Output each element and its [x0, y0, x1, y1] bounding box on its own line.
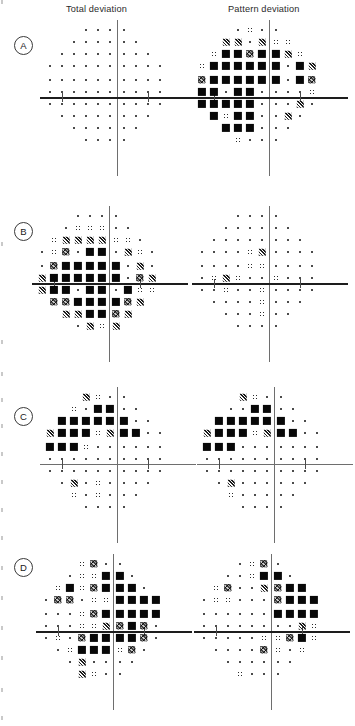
p05-solid-square-symbol	[274, 572, 282, 580]
dot-symbol	[49, 103, 51, 105]
dot-symbol	[123, 139, 125, 141]
p05-solid-square-symbol	[50, 274, 58, 282]
dot-symbol	[109, 79, 111, 81]
p05-solid-square-symbol	[310, 610, 318, 618]
dot-symbol	[287, 251, 289, 253]
dot-symbol	[237, 227, 239, 229]
dot-symbol	[261, 139, 263, 141]
dot-symbol	[266, 470, 268, 472]
p1-dense-hatch-symbol	[260, 560, 267, 567]
p5-stipple-symbol	[236, 138, 241, 143]
p2-hatch-symbol	[228, 480, 235, 487]
dot-symbol	[311, 251, 313, 253]
dot-symbol	[299, 265, 301, 267]
dot-symbol	[123, 396, 125, 398]
dot-symbol	[203, 625, 205, 627]
dot-symbol	[57, 613, 59, 615]
axis-tick	[62, 460, 63, 469]
p1-dense-hatch-symbol	[128, 646, 135, 653]
dot-symbol	[135, 446, 137, 448]
p5-stipple-symbol	[212, 276, 217, 281]
p05-solid-square-symbol	[116, 634, 124, 642]
dot-symbol	[242, 470, 244, 472]
p1-dense-hatch-symbol	[140, 634, 147, 641]
dot-symbol	[109, 115, 111, 117]
dot-symbol	[292, 470, 294, 472]
dot-symbol	[139, 239, 141, 241]
dot-symbol	[81, 599, 83, 601]
scan-edge-mark	[1, 508, 3, 512]
p1-dense-hatch-symbol	[90, 584, 97, 591]
dot-symbol	[97, 41, 99, 43]
dot-symbol	[254, 446, 256, 448]
p05-solid-square-symbol	[86, 310, 94, 318]
dot-symbol	[242, 446, 244, 448]
dot-symbol	[299, 301, 301, 303]
p05-solid-square-symbol	[106, 405, 114, 413]
dot-symbol	[213, 251, 215, 253]
panel-badge-a: A	[14, 36, 33, 55]
dot-symbol	[61, 458, 63, 460]
dot-symbol	[275, 215, 277, 217]
dot-symbol	[292, 482, 294, 484]
p05-solid-square-symbol	[246, 100, 254, 108]
p05-solid-square-symbol	[234, 62, 242, 70]
dot-symbol	[206, 470, 208, 472]
p5-stipple-symbol	[114, 238, 119, 243]
p05-solid-square-symbol	[102, 646, 110, 654]
dot-symbol	[115, 215, 117, 217]
p2-hatch-symbol	[285, 51, 292, 58]
p05-solid-square-symbol	[234, 76, 242, 84]
p05-solid-square-symbol	[98, 248, 106, 256]
dot-symbol	[159, 446, 161, 448]
horizontal-axis	[192, 283, 348, 285]
p05-solid-square-symbol	[286, 596, 294, 604]
p05-solid-square-symbol	[86, 262, 94, 270]
dot-symbol	[159, 470, 161, 472]
dot-symbol	[311, 289, 313, 291]
dot-symbol	[61, 53, 63, 55]
plot-c-pattern-deviation	[195, 385, 355, 545]
dot-symbol	[287, 103, 289, 105]
p5-stipple-symbol	[52, 238, 57, 243]
dot-symbol	[151, 251, 153, 253]
p5-stipple-symbol	[96, 395, 101, 400]
dot-symbol	[225, 313, 227, 315]
dot-symbol	[292, 420, 294, 422]
dot-symbol	[147, 65, 149, 67]
p05-solid-square-symbol	[246, 76, 254, 84]
axis-tick	[148, 460, 149, 469]
p05-solid-square-symbol	[116, 572, 124, 580]
dot-symbol	[85, 115, 87, 117]
dot-symbol	[237, 251, 239, 253]
p5-stipple-symbol	[260, 264, 265, 269]
dot-symbol	[292, 446, 294, 448]
p1-dense-hatch-symbol	[124, 298, 131, 305]
dot-symbol	[69, 613, 71, 615]
p5-stipple-symbol	[253, 395, 258, 400]
dot-symbol	[251, 613, 253, 615]
dot-symbol	[316, 458, 318, 460]
p5-stipple-symbol	[260, 300, 265, 305]
dot-symbol	[73, 470, 75, 472]
p05-solid-square-symbol	[98, 310, 106, 318]
column-header-pattern-deviation: Pattern deviation	[228, 4, 300, 14]
p05-solid-square-symbol	[239, 417, 247, 425]
dot-symbol	[159, 91, 161, 93]
dot-symbol	[109, 396, 111, 398]
p05-solid-square-symbol	[222, 76, 230, 84]
p5-stipple-symbol	[138, 288, 143, 293]
horizontal-axis	[192, 97, 348, 99]
p2-hatch-symbol	[235, 39, 242, 46]
p5-stipple-symbol	[96, 431, 101, 436]
p05-solid-square-symbol	[128, 584, 136, 592]
dot-symbol	[239, 649, 241, 651]
p05-solid-square-symbol	[102, 610, 110, 618]
p05-solid-square-symbol	[298, 610, 306, 618]
dot-symbol	[263, 613, 265, 615]
p1-dense-hatch-symbol	[50, 298, 57, 305]
dot-symbol	[123, 65, 125, 67]
p05-solid-square-symbol	[58, 429, 66, 437]
dot-symbol	[292, 494, 294, 496]
